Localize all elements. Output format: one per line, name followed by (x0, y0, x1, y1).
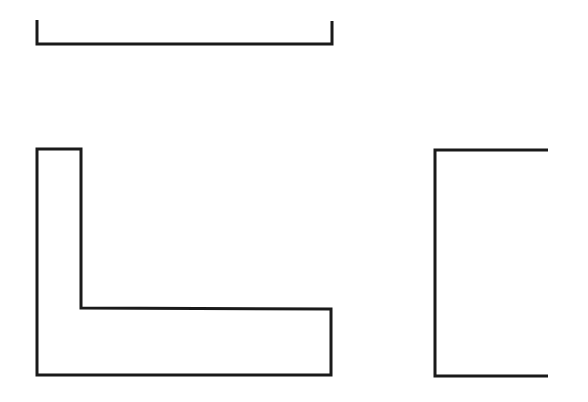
right-bracket-shape (435, 150, 548, 376)
diagram-canvas (0, 0, 588, 402)
l-shape-outline (37, 149, 331, 375)
shapes-layer (0, 0, 588, 402)
top-bracket-shape (37, 20, 332, 44)
